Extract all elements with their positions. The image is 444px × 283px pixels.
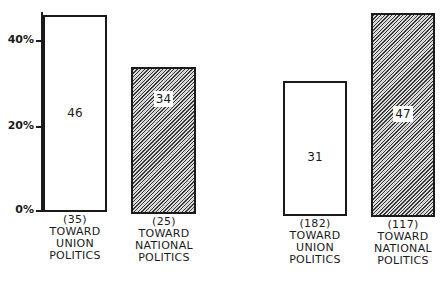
bar-national-117: 47 bbox=[371, 13, 435, 217]
category-label-national-117: (117) TOWARD NATIONAL POLITICS bbox=[364, 219, 442, 267]
bar-national-25: 34 bbox=[131, 67, 196, 214]
y-tick-label-20: 20% bbox=[0, 119, 34, 132]
category-label-union-182: (182) TOWARD UNION POLITICS bbox=[278, 218, 352, 266]
y-tick-40 bbox=[36, 40, 42, 42]
y-tick-label-0: 0% bbox=[0, 203, 34, 216]
bar-value-label: 46 bbox=[45, 106, 105, 120]
bar-union-35: 46 bbox=[43, 15, 107, 212]
category-label-national-25: (25) TOWARD NATIONAL POLITICS bbox=[126, 216, 202, 264]
category-label-union-35: (35) TOWARD UNION POLITICS bbox=[40, 214, 110, 262]
y-tick-20 bbox=[36, 126, 42, 128]
bar-union-182: 31 bbox=[283, 81, 347, 216]
bar-value-label: 47 bbox=[373, 107, 433, 121]
bar-value-label: 31 bbox=[285, 150, 345, 164]
y-tick-label-40: 40% bbox=[0, 33, 34, 46]
bar-value-label: 34 bbox=[133, 92, 194, 106]
